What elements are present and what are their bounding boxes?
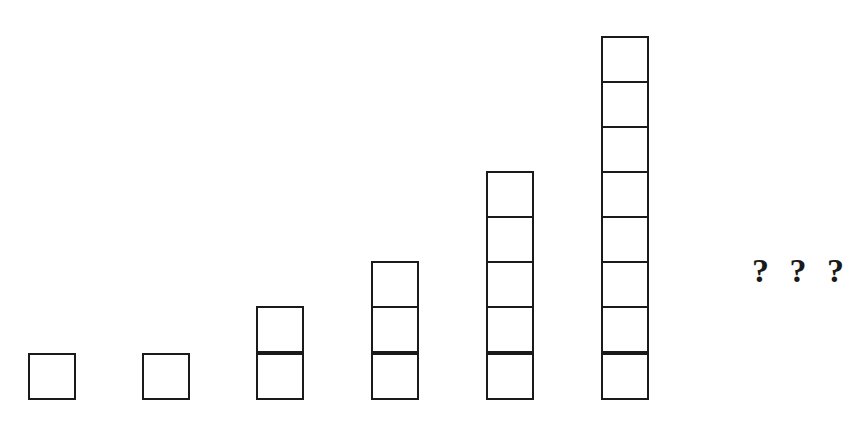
square-stack-column-4 (371, 263, 419, 400)
square-stack-column-6 (601, 38, 649, 400)
unit-square (486, 216, 534, 263)
square-stack-column-5 (486, 173, 534, 400)
unit-square (371, 261, 419, 308)
unit-square (601, 36, 649, 83)
unit-square (486, 171, 534, 218)
square-stack-column-1 (28, 353, 76, 400)
unit-square (601, 353, 649, 400)
unknown-next-term-label: ? ? ? (752, 252, 850, 290)
unit-square (601, 306, 649, 353)
unit-square (486, 353, 534, 400)
unit-square (256, 306, 304, 353)
unit-square (371, 353, 419, 400)
unit-square (371, 306, 419, 353)
unit-square (601, 81, 649, 128)
square-stack-column-2 (142, 353, 190, 400)
unit-square (486, 261, 534, 308)
unit-square (601, 126, 649, 173)
unit-square (601, 261, 649, 308)
unit-square (142, 353, 190, 400)
unit-square (601, 216, 649, 263)
unit-square (601, 171, 649, 218)
square-stack-column-3 (256, 308, 304, 400)
unit-square (486, 306, 534, 353)
unit-square (256, 353, 304, 400)
unit-square (28, 353, 76, 400)
